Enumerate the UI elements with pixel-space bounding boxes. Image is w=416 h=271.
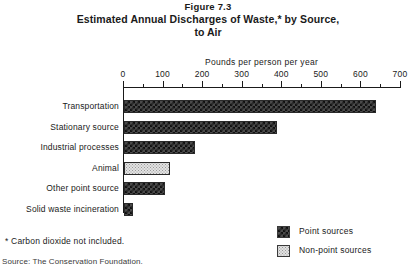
bar-row: Animal xyxy=(0,162,416,175)
bar xyxy=(124,141,195,154)
bar-row: Stationary source xyxy=(0,121,416,134)
bar-row: Industrial processes xyxy=(0,141,416,154)
source-note: Source: The Conservation Foundation. xyxy=(2,257,143,266)
bar-category-label: Transportation xyxy=(62,101,119,111)
bar xyxy=(124,203,133,216)
bar-category-label: Solid waste incineration xyxy=(26,204,119,214)
bar-row: Other point source xyxy=(0,182,416,195)
chart-legend: Point sourcesNon-point sources xyxy=(277,224,416,262)
bar-category-label: Animal xyxy=(92,163,119,173)
bar-row: Solid waste incineration xyxy=(0,203,416,216)
legend-swatch-icon xyxy=(277,226,290,238)
legend-label: Point sources xyxy=(299,226,353,236)
bar-category-label: Stationary source xyxy=(50,122,119,132)
legend-swatch-icon xyxy=(277,245,290,257)
legend-label: Non-point sources xyxy=(299,245,371,255)
bar xyxy=(124,121,277,134)
legend-item: Point sources xyxy=(277,224,416,243)
footnote-text: * Carbon dioxide not included. xyxy=(5,236,124,246)
legend-item: Non-point sources xyxy=(277,243,416,262)
bar xyxy=(124,182,165,195)
bar-category-label: Other point source xyxy=(46,183,119,193)
bar xyxy=(124,100,376,113)
bar-row: Transportation xyxy=(0,100,416,113)
bar xyxy=(124,162,170,175)
bar-category-label: Industrial processes xyxy=(40,142,119,152)
